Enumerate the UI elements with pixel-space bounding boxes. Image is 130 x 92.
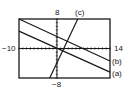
line-c-label: (c) (75, 8, 85, 17)
line-a (19, 31, 110, 72)
x-min-label: −10 (2, 44, 16, 53)
line-b-label: (b) (112, 57, 122, 66)
x-max-label: 14 (114, 44, 123, 53)
graph-window: 8 −8 −10 14 (c) (b) (a) (0, 0, 130, 92)
line-b (19, 19, 110, 61)
axes (19, 19, 110, 78)
y-max-label: 8 (55, 8, 60, 17)
line-a-label: (a) (112, 69, 122, 78)
y-min-label: −8 (52, 80, 62, 89)
